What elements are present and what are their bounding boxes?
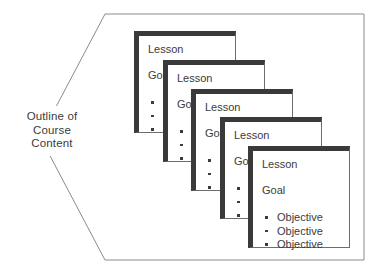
bullet-icon [151, 128, 154, 131]
lesson-card-title: Lesson [148, 43, 235, 56]
bullet-icon [237, 201, 240, 204]
outline-label: Outline of Course Content [4, 110, 100, 151]
lesson-card-title: Lesson [262, 158, 349, 171]
objective-label: Objective [277, 225, 323, 237]
lesson-card-title: Lesson [177, 72, 264, 85]
bullet-icon [265, 230, 268, 233]
outline-label-line-3: Content [4, 137, 100, 151]
lesson-card-title: Lesson [205, 101, 292, 114]
bullet-icon [151, 101, 154, 104]
bullet-icon [151, 115, 154, 118]
bullet-icon [180, 157, 183, 160]
bullet-icon [237, 187, 240, 190]
lesson-card[interactable]: Lesson Goal Objective Objective Objectiv… [248, 146, 350, 248]
lesson-card-goal: Goal [262, 184, 349, 197]
lesson-card-title: Lesson [234, 129, 321, 142]
bullet-icon [208, 186, 211, 189]
objective-label: Objective [277, 211, 323, 223]
objective-item: Objective [264, 238, 349, 252]
bullet-icon [208, 159, 211, 162]
outline-label-line-2: Course [4, 124, 100, 138]
objective-item: Objective [264, 211, 349, 225]
outline-label-line-1: Outline of [4, 110, 100, 124]
bullet-icon [180, 144, 183, 147]
lesson-card-objectives: Objective Objective Objective [264, 211, 349, 252]
bullet-icon [265, 216, 268, 219]
lesson-card-body: Lesson Goal Objective Objective Objectiv… [253, 151, 349, 247]
bullet-icon [237, 214, 240, 217]
bullet-icon [208, 173, 211, 176]
bullet-icon [180, 130, 183, 133]
diagram-root: Outline of Course Content Lesson Goal Ob… [0, 0, 379, 280]
objective-label: Objective [277, 238, 323, 250]
objective-item: Objective [264, 225, 349, 239]
bullet-icon [265, 243, 268, 246]
